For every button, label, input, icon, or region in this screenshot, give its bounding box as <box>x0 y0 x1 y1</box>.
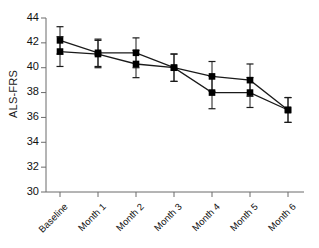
chart-plot-area <box>0 0 319 248</box>
data-point-marker <box>247 89 254 96</box>
data-point-marker <box>285 107 292 114</box>
y-axis-tick-label: 36 <box>13 110 39 122</box>
y-axis-tick-label: 38 <box>13 85 39 97</box>
data-point-marker <box>95 51 102 58</box>
data-point-marker <box>133 50 140 57</box>
y-axis-tick-label: 44 <box>13 11 39 23</box>
data-point-marker <box>57 37 64 44</box>
als-frs-line-chart: ALS-FRS 3032343638404244 BaselineMonth 1… <box>0 0 319 248</box>
y-axis-tick-label: 32 <box>13 160 39 172</box>
y-axis-tick-label: 30 <box>13 185 39 197</box>
data-point-marker <box>209 89 216 96</box>
y-axis-tick-label: 42 <box>13 35 39 47</box>
data-point-marker <box>209 73 216 80</box>
y-axis-tick-label: 34 <box>13 135 39 147</box>
data-point-marker <box>171 64 178 71</box>
data-point-marker <box>57 48 64 55</box>
data-point-marker <box>133 61 140 68</box>
y-axis-tick-label: 40 <box>13 60 39 72</box>
data-point-marker <box>247 77 254 84</box>
